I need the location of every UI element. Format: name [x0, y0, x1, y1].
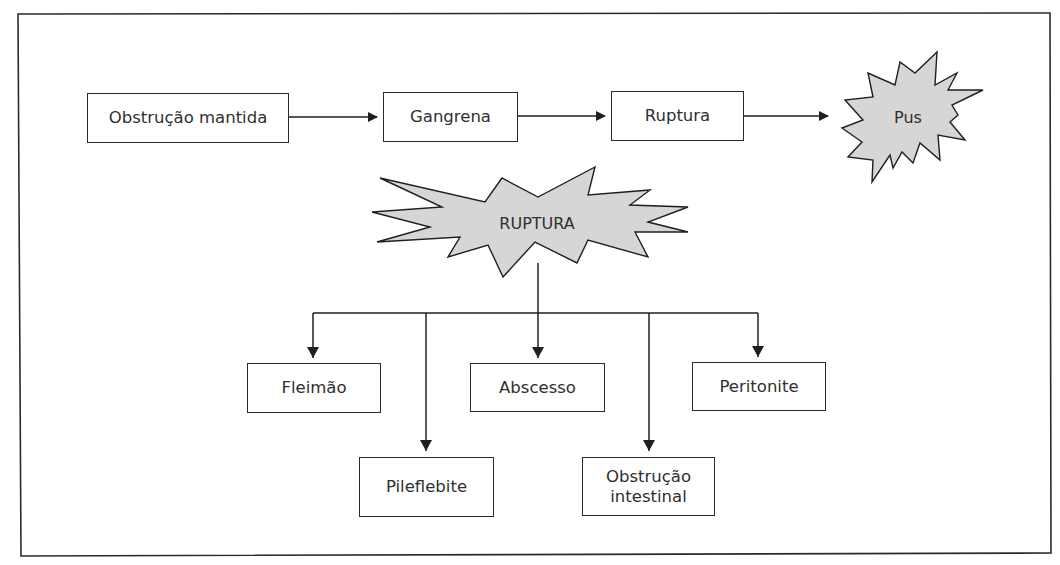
node-label: Peritonite	[719, 377, 798, 397]
node-label: Abscesso	[499, 378, 576, 398]
node-pus-label: Pus	[894, 108, 922, 127]
node-label: Obstrução intestinal	[606, 467, 691, 507]
node-obstrucao-intestinal: Obstrução intestinal	[582, 457, 715, 516]
node-peritonite: Peritonite	[692, 362, 826, 411]
diagram-canvas	[0, 0, 1060, 565]
node-ruptura-root-label: RUPTURA	[499, 214, 574, 233]
node-label: Pileflebite	[386, 477, 467, 497]
node-gangrena: Gangrena	[383, 92, 518, 142]
node-label: Ruptura	[645, 106, 710, 126]
node-label: Gangrena	[410, 107, 491, 127]
node-label: Obstrução mantida	[109, 108, 268, 128]
node-obstrucao-mantida: Obstrução mantida	[87, 93, 289, 143]
node-fleimao: Fleimão	[247, 363, 381, 413]
node-label: Fleimão	[281, 378, 346, 398]
node-abscesso: Abscesso	[470, 363, 605, 412]
node-ruptura: Ruptura	[611, 91, 744, 141]
node-pileflebite: Pileflebite	[359, 457, 494, 517]
